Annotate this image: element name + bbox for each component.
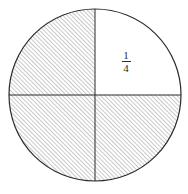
fraction-circle-figure: 1 4 (0, 0, 188, 194)
fraction-denominator: 4 (116, 63, 136, 73)
fraction-label-one-quarter: 1 4 (116, 50, 136, 73)
fraction-numerator: 1 (116, 50, 136, 60)
circle-diagram-svg (0, 0, 188, 194)
